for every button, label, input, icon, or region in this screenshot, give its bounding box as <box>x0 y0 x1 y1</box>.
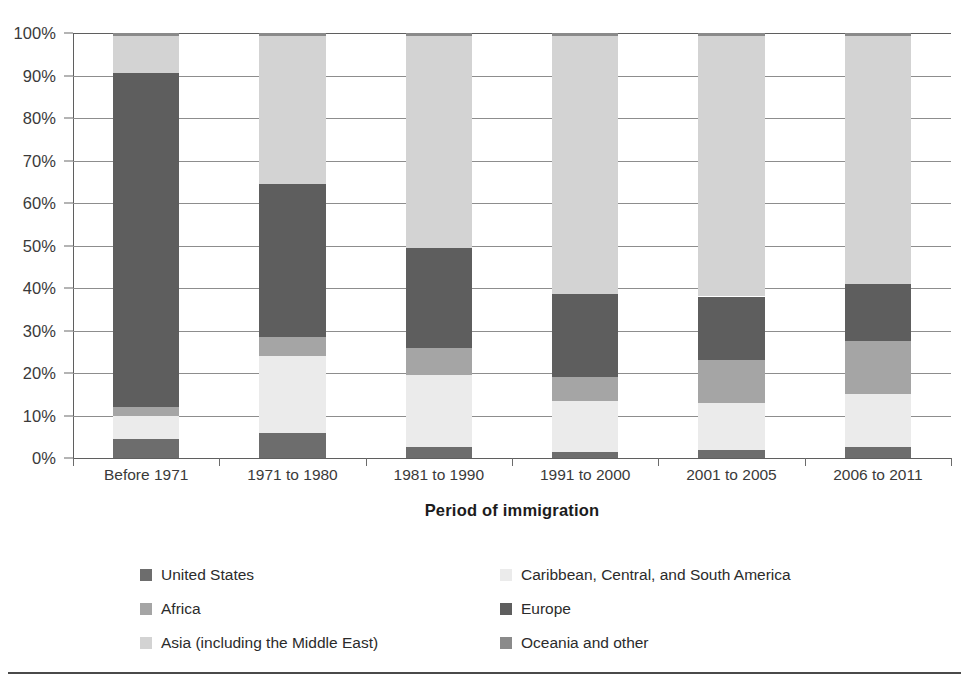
y-axis-tick-label: 50% <box>23 236 56 255</box>
stacked-bar-chart: 0%10%20%30%40%50%60%70%80%90%100% Before… <box>0 0 969 686</box>
legend-swatch-icon <box>140 603 152 615</box>
bar-segment[interactable] <box>113 439 180 458</box>
legend-item-caribbean-central-south-america[interactable]: Caribbean, Central, and South America <box>500 566 900 584</box>
y-axis-tick-mark <box>64 373 73 374</box>
legend-item-europe[interactable]: Europe <box>500 600 900 618</box>
x-axis-tick-mark <box>658 458 659 466</box>
legend-row: United StatesCaribbean, Central, and Sou… <box>140 558 900 592</box>
bar-group[interactable] <box>698 33 765 458</box>
bar-segment[interactable] <box>113 73 180 407</box>
legend-label: Africa <box>161 600 201 618</box>
y-axis-tick-label: 40% <box>23 279 56 298</box>
bar-segment[interactable] <box>406 248 473 348</box>
bar-segment[interactable] <box>845 284 912 341</box>
x-axis-labels: Before 19711971 to 19801981 to 19901991 … <box>73 466 951 492</box>
x-axis-tick-mark <box>512 458 513 466</box>
y-axis-tick-label: 90% <box>23 66 56 85</box>
bar-segment[interactable] <box>845 394 912 447</box>
y-axis-tick-mark <box>64 330 73 331</box>
y-axis-tick-mark <box>64 33 73 34</box>
x-axis-tick-label: 1981 to 1990 <box>394 466 485 484</box>
y-axis-tick-label: 30% <box>23 321 56 340</box>
x-axis-tick-label: 2001 to 2005 <box>686 466 777 484</box>
x-axis-tick-label: 1971 to 1980 <box>247 466 338 484</box>
bar-segment[interactable] <box>406 447 473 458</box>
legend-item-oceania-and-other[interactable]: Oceania and other <box>500 634 900 652</box>
x-axis-title: Period of immigration <box>73 501 951 520</box>
y-axis-tick-label: 10% <box>23 406 56 425</box>
y-axis-tick-mark <box>64 288 73 289</box>
legend-swatch-icon <box>500 569 512 581</box>
legend-item-africa[interactable]: Africa <box>140 600 500 618</box>
bar-segment[interactable] <box>845 341 912 394</box>
bar-group[interactable] <box>406 33 473 458</box>
legend-swatch-icon <box>140 637 152 649</box>
bar-stack <box>406 33 473 458</box>
bar-segment[interactable] <box>406 33 473 36</box>
bar-segment[interactable] <box>113 416 180 439</box>
legend: United StatesCaribbean, Central, and Sou… <box>140 558 900 660</box>
y-axis-tick-mark <box>64 203 73 204</box>
bar-group[interactable] <box>259 33 326 458</box>
x-axis-tick-mark <box>73 458 74 466</box>
plot-panel <box>73 33 951 458</box>
y-axis-tick-label: 70% <box>23 151 56 170</box>
x-axis-tick-mark <box>219 458 220 466</box>
bar-segment[interactable] <box>845 33 912 36</box>
legend-label: Asia (including the Middle East) <box>161 634 378 652</box>
x-axis-tick-label: 1991 to 2000 <box>540 466 631 484</box>
bar-segment[interactable] <box>698 403 765 450</box>
bar-segment[interactable] <box>259 184 326 337</box>
bar-segment[interactable] <box>113 407 180 416</box>
bar-segment[interactable] <box>113 33 180 36</box>
y-axis: 0%10%20%30%40%50%60%70%80%90%100% <box>0 0 64 470</box>
bar-group[interactable] <box>845 33 912 458</box>
bar-segment[interactable] <box>845 447 912 458</box>
x-axis-tick-mark <box>366 458 367 466</box>
bar-segment[interactable] <box>552 294 619 377</box>
bar-segment[interactable] <box>406 348 473 376</box>
bar-stack <box>845 33 912 458</box>
legend-row: Asia (including the Middle East)Oceania … <box>140 626 900 660</box>
bar-segment[interactable] <box>552 33 619 36</box>
y-axis-tick-mark <box>64 415 73 416</box>
legend-swatch-icon <box>500 603 512 615</box>
bar-segment[interactable] <box>406 375 473 447</box>
bar-segment[interactable] <box>698 36 765 297</box>
bar-segment[interactable] <box>259 356 326 433</box>
bar-segment[interactable] <box>259 337 326 356</box>
bar-stack <box>113 33 180 458</box>
bar-segment[interactable] <box>552 401 619 452</box>
legend-swatch-icon <box>500 637 512 649</box>
y-axis-tick-mark <box>64 245 73 246</box>
legend-label: Oceania and other <box>521 634 649 652</box>
bar-segment[interactable] <box>552 452 619 458</box>
bar-segment[interactable] <box>698 360 765 403</box>
bar-stack <box>698 33 765 458</box>
bar-segment[interactable] <box>552 36 619 294</box>
bar-segment[interactable] <box>259 33 326 36</box>
bar-segment[interactable] <box>406 36 473 247</box>
x-axis-tick-label: Before 1971 <box>104 466 188 484</box>
bar-segment[interactable] <box>552 377 619 400</box>
bar-group[interactable] <box>113 33 180 458</box>
y-axis-tick-mark <box>64 75 73 76</box>
y-axis-tick-mark <box>64 118 73 119</box>
bar-segment[interactable] <box>698 450 765 459</box>
legend-label: Caribbean, Central, and South America <box>521 566 791 584</box>
bar-segment[interactable] <box>113 36 180 73</box>
legend-item-asia-including-middle-east[interactable]: Asia (including the Middle East) <box>140 634 500 652</box>
bar-segment[interactable] <box>259 433 326 459</box>
bar-stack <box>259 33 326 458</box>
bars-layer <box>73 33 951 458</box>
legend-label: United States <box>161 566 254 584</box>
bar-segment[interactable] <box>845 36 912 284</box>
bar-segment[interactable] <box>698 297 765 361</box>
legend-item-united-states[interactable]: United States <box>140 566 500 584</box>
bar-stack <box>552 33 619 458</box>
legend-row: AfricaEurope <box>140 592 900 626</box>
bar-segment[interactable] <box>698 33 765 36</box>
y-axis-tick-mark <box>64 160 73 161</box>
bar-group[interactable] <box>552 33 619 458</box>
bar-segment[interactable] <box>259 36 326 184</box>
